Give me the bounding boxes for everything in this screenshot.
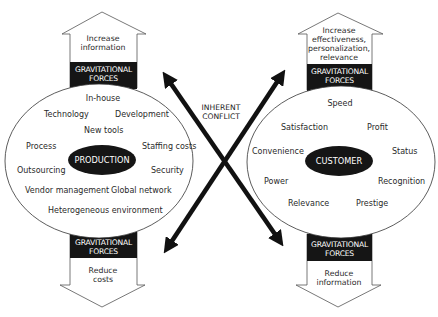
production-item: Global network bbox=[111, 186, 172, 195]
customer-up-text-1: Increase bbox=[323, 26, 356, 35]
production-top-band-text-2: FORCES bbox=[89, 74, 118, 83]
conflict-label-2: CONFLICT bbox=[202, 112, 240, 121]
gravitational-forces-diagram: Increase information GRAVITATIONAL FORCE… bbox=[0, 0, 438, 317]
production-item: Staffing costs bbox=[142, 142, 196, 151]
customer-item: Relevance bbox=[288, 199, 329, 208]
production-up-text-2: information bbox=[81, 43, 126, 52]
production-item: Development bbox=[115, 110, 169, 119]
customer-up-text-4: relevance bbox=[320, 53, 358, 62]
production-down-text-1: Reduce bbox=[89, 266, 118, 275]
customer-down-text-2: information bbox=[317, 278, 362, 287]
production-item: Process bbox=[26, 142, 56, 151]
customer-bottom-band-text-2: FORCES bbox=[325, 249, 354, 258]
customer-item: Prestige bbox=[356, 199, 388, 208]
production-item: Technology bbox=[43, 110, 89, 119]
production-item: Outsourcing bbox=[17, 166, 66, 175]
customer-up-arrow: Increase effectiveness, personalization,… bbox=[298, 13, 383, 91]
production-up-text-1: Increase bbox=[87, 34, 120, 43]
production-down-arrow: GRAVITATIONAL FORCES Reduce costs bbox=[60, 232, 145, 307]
customer-core-label: CUSTOMER bbox=[316, 156, 363, 166]
customer-up-text-2: effectiveness, bbox=[312, 35, 366, 44]
production-item: New tools bbox=[84, 126, 123, 135]
production-top-band-text-1: GRAVITATIONAL bbox=[75, 65, 133, 74]
production-bottom-band-text-2: FORCES bbox=[89, 247, 118, 256]
production-item: In-house bbox=[86, 94, 121, 103]
production-bottom-band-text-1: GRAVITATIONAL bbox=[75, 238, 133, 247]
customer-item: Status bbox=[392, 147, 418, 156]
customer-item: Recognition bbox=[378, 177, 425, 186]
customer-item: Speed bbox=[327, 99, 352, 108]
production-up-arrow: Increase information GRAVITATIONAL FORCE… bbox=[62, 12, 146, 89]
production-item: Heterogeneous environment bbox=[48, 206, 163, 215]
customer-down-arrow: GRAVITATIONAL FORCES Reduce information bbox=[296, 234, 381, 307]
customer-item: Satisfaction bbox=[281, 123, 328, 132]
production-item: Security bbox=[151, 166, 184, 175]
production-down-text-2: costs bbox=[93, 275, 113, 284]
customer-down-text-1: Reduce bbox=[325, 269, 354, 278]
customer-top-band-text-2: FORCES bbox=[325, 76, 354, 85]
customer-item: Power bbox=[264, 177, 289, 186]
customer-item: Convenience bbox=[252, 147, 304, 156]
customer-top-band-text-1: GRAVITATIONAL bbox=[311, 67, 369, 76]
conflict-label-1: INHERENT bbox=[202, 103, 241, 112]
customer-item: Profit bbox=[367, 123, 388, 132]
production-core-label: PRODUCTION bbox=[74, 155, 129, 165]
customer-up-text-3: personalization, bbox=[308, 44, 370, 53]
production-item: Vendor management bbox=[25, 186, 109, 195]
customer-bottom-band-text-1: GRAVITATIONAL bbox=[311, 240, 369, 249]
